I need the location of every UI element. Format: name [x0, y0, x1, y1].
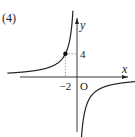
y-tick-label: 4 [80, 48, 86, 60]
origin-label: O [80, 80, 88, 92]
curve-right-branch [81, 82, 135, 137]
chart: (4) x y O −2 4 [0, 0, 135, 137]
curve-left-branch [7, 11, 73, 73]
problem-label: (4) [2, 11, 16, 25]
x-tick-label: −2 [60, 80, 72, 92]
x-axis-label: x [121, 62, 128, 76]
y-axis-label: y [79, 18, 86, 32]
y-axis-arrow [75, 18, 79, 24]
marked-point [63, 52, 67, 56]
